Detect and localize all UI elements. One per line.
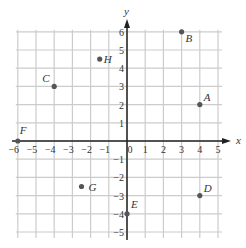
y-tick-label: 2 (119, 100, 124, 111)
x-tick-label: 2 (161, 144, 166, 155)
x-tick-label: 1 (143, 144, 148, 155)
point-H: H (97, 53, 113, 65)
x-tick-label: 5 (216, 144, 221, 155)
point-label: B (186, 32, 193, 44)
point-label: A (203, 91, 211, 103)
point-label: G (89, 181, 97, 193)
y-axis-label: y (123, 5, 129, 17)
point-dot-icon (79, 184, 84, 189)
x-axis-arrow-icon (222, 138, 231, 144)
y-tick-label: 4 (119, 63, 124, 74)
y-tick-label: 3 (119, 81, 124, 92)
y-tick-label: 1 (119, 118, 124, 129)
y-tick-label: −4 (113, 209, 124, 220)
grid-lines (16, 30, 222, 238)
x-tick-label: 0 (128, 144, 133, 155)
point-dot-icon (124, 211, 129, 216)
y-tick-label: −3 (113, 191, 124, 202)
x-tick-label: −5 (27, 144, 38, 155)
point-dot-icon (15, 138, 20, 143)
y-tick-label: −1 (113, 154, 124, 165)
point-dot-icon (97, 57, 102, 62)
point-label: H (103, 53, 113, 65)
x-tick-label: −2 (81, 144, 92, 155)
x-tick-label: −4 (45, 144, 56, 155)
x-tick-label: 4 (197, 144, 202, 155)
point-dot-icon (197, 102, 202, 107)
point-dot-icon (197, 193, 202, 198)
x-tick-label: −1 (99, 144, 110, 155)
point-G: G (79, 181, 97, 193)
x-axis-label: x (235, 134, 241, 146)
point-label: F (19, 124, 27, 136)
y-axis-arrow-icon (124, 19, 130, 28)
coordinate-plane: −6−5−4−3−2−1012345 654321−1−2−3−4−5 ABCD… (0, 0, 246, 248)
y-tick-labels: 654321−1−2−3−4−5 (113, 27, 124, 238)
point-dot-icon (52, 84, 57, 89)
x-tick-label: −6 (8, 144, 19, 155)
point-dot-icon (179, 29, 184, 34)
point-label: E (130, 198, 138, 210)
y-tick-label: −5 (113, 227, 124, 238)
y-tick-label: 5 (119, 45, 124, 56)
y-tick-label: 6 (119, 27, 124, 38)
x-tick-label: 3 (179, 144, 184, 155)
y-tick-label: −2 (113, 172, 124, 183)
point-label: C (42, 72, 50, 84)
point-label: D (203, 182, 212, 194)
x-tick-label: −3 (63, 144, 74, 155)
